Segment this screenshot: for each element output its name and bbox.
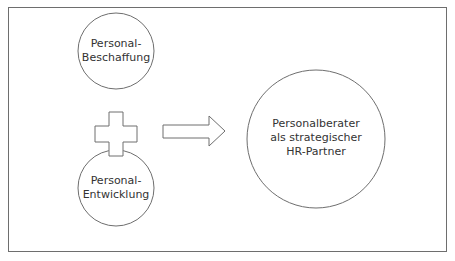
arrow-right-icon (163, 116, 225, 146)
label-beschaffung: Personal- Beschaffung (76, 37, 156, 65)
plus-icon (95, 112, 137, 156)
diagram-shapes (0, 0, 455, 261)
label-entwicklung: Personal- Entwicklung (76, 174, 156, 202)
label-berater: Personalberater als strategischer HR-Par… (256, 117, 376, 159)
